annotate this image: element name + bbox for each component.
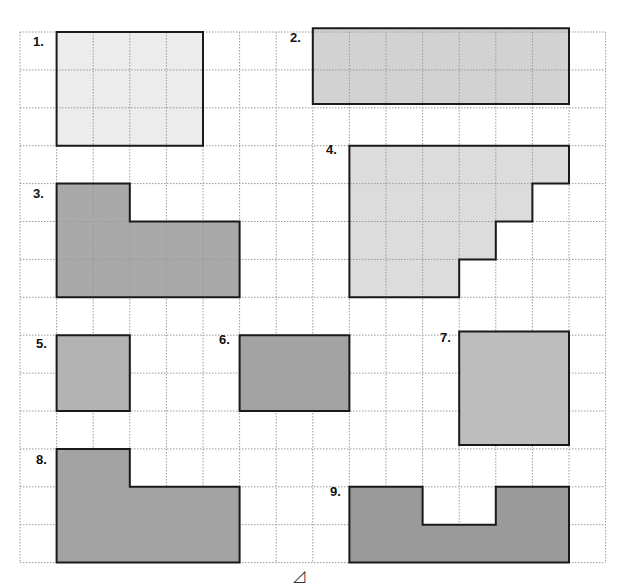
shape-label-4: 4. bbox=[326, 142, 337, 157]
shape-label-2: 2. bbox=[290, 30, 301, 45]
shape-2 bbox=[313, 28, 569, 104]
shape-label-6: 6. bbox=[219, 332, 230, 347]
shape-3 bbox=[57, 184, 240, 298]
shape-label-9: 9. bbox=[330, 484, 341, 499]
shape-label-7: 7. bbox=[440, 330, 451, 345]
corner-mark-icon: ◿ bbox=[293, 566, 305, 584]
grid-paper bbox=[0, 0, 629, 584]
shape-8-fill bbox=[57, 449, 240, 563]
shape-label-3: 3. bbox=[33, 186, 44, 201]
shape-label-8: 8. bbox=[36, 452, 47, 467]
shape-5-fill bbox=[57, 335, 130, 411]
worksheet: 1.2.3.4.5.6.7.8.9. ◿ bbox=[0, 0, 629, 584]
shape-6-fill bbox=[240, 335, 350, 411]
shape-7-fill bbox=[459, 331, 569, 445]
shape-label-1: 1. bbox=[33, 34, 44, 49]
shape-label-5: 5. bbox=[36, 336, 47, 351]
